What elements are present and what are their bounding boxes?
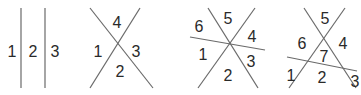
region-label: 3	[247, 53, 256, 70]
panel-two-intersecting-lines: 4132	[90, 8, 153, 88]
region-label: 6	[298, 35, 307, 52]
region-label: 4	[339, 35, 348, 52]
region-label: 2	[224, 67, 233, 84]
region-label: 2	[318, 69, 327, 86]
region-label: 1	[94, 43, 103, 60]
region-label: 1	[8, 43, 17, 60]
panel-three-concurrent-lines: 654132	[190, 8, 265, 88]
region-label: 3	[51, 43, 60, 60]
panel-three-general-lines: 5647123	[287, 8, 360, 90]
region-label: 7	[320, 48, 329, 65]
panel-two-parallel-lines: 123	[8, 8, 60, 88]
region-label: 2	[116, 63, 125, 80]
region-label: 5	[321, 10, 330, 27]
region-label: 1	[199, 46, 208, 63]
region-label: 3	[351, 73, 360, 90]
lines-dividing-plane-diagram: 12341326541325647123	[0, 0, 361, 95]
region-label: 6	[195, 18, 204, 35]
region-label: 4	[248, 28, 257, 45]
region-label: 1	[287, 67, 296, 84]
dividing-line	[304, 8, 356, 88]
region-label: 4	[113, 14, 122, 31]
region-label: 5	[224, 10, 233, 27]
region-label: 2	[29, 43, 38, 60]
region-label: 3	[132, 43, 141, 60]
